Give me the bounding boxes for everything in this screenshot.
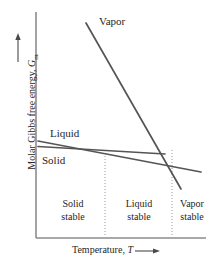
y-axis-arrow-icon [15, 33, 20, 62]
zone-liquid-line1: Liquid [126, 198, 153, 209]
zone-vapor-line1: Vapor [180, 198, 204, 209]
x-axis-label-text: Temperature, [72, 244, 125, 255]
zone-solid-line2: stable [61, 211, 84, 222]
y-axis-label: Molar Gibbs free energy, Gm [25, 27, 41, 197]
zone-liquid-line2: stable [127, 211, 150, 222]
zone-label-liquid: Liquid stable [110, 198, 168, 223]
vapor-curve [86, 23, 181, 189]
zone-label-solid: Solid stable [44, 198, 102, 223]
x-axis-label-symbol: T [127, 244, 133, 255]
zone-solid-line1: Solid [62, 198, 83, 209]
zone-label-vapor: Vapor stable [172, 198, 212, 223]
gibbs-free-energy-chart: Molar Gibbs free energy, Gm Vapor Liquid… [0, 0, 213, 265]
liquid-curve-label: Liquid [50, 128, 79, 139]
x-axis-arrow-icon [135, 247, 161, 255]
y-axis-label-text: Molar Gibbs free energy, Gm [26, 54, 40, 169]
x-axis-label: Temperature, T [72, 245, 161, 255]
zone-vapor-line2: stable [180, 211, 203, 222]
vapor-curve-label: Vapor [99, 16, 125, 27]
solid-curve-label: Solid [42, 155, 65, 166]
